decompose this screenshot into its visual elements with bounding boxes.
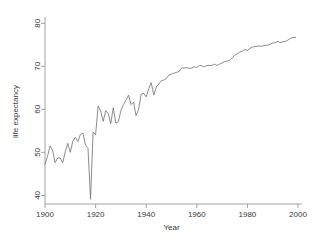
y-tick-label: 70 [34,61,43,70]
chart-container: 4050607080 190019201940196019802000 Year… [0,0,315,248]
x-tick-label: 2000 [289,210,307,219]
y-axis: 4050607080 [34,17,46,204]
x-tick-group: 190019201940196019802000 [36,204,307,219]
x-tick-label: 1900 [36,210,54,219]
x-tick-label: 1980 [239,210,257,219]
x-tick-label: 1940 [137,210,155,219]
y-tick-group: 4050607080 [34,18,46,200]
x-tick-label: 1960 [188,210,206,219]
y-axis-title: life expectancy [11,85,20,138]
y-tick-label: 40 [34,190,43,199]
x-tick-label: 1920 [87,210,105,219]
x-axis-title: Year [163,223,180,232]
y-tick-label: 60 [34,104,43,113]
line-chart: 4050607080 190019201940196019802000 Year… [0,0,315,248]
y-tick-label: 50 [34,147,43,156]
y-tick-label: 80 [34,18,43,27]
x-axis: 190019201940196019802000 [36,204,307,219]
series-line-life-expectancy [45,38,295,200]
